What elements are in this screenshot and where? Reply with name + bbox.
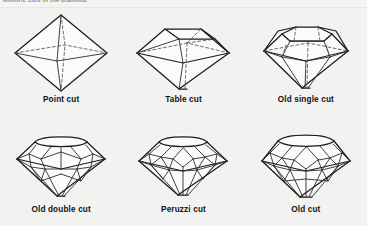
diamond-cut-cell-old-double-cut: Old double cut xyxy=(0,117,122,226)
old-cut-illustration xyxy=(252,121,360,205)
peruzzi-cut-illustration xyxy=(129,121,237,205)
old-single-cut-label: Old single cut xyxy=(278,96,334,104)
diamond-cut-cell-table-cut: Table cut xyxy=(122,8,244,117)
diamond-cut-cell-peruzzi-cut: Peruzzi cut xyxy=(122,117,244,226)
diamond-cut-cell-old-single-cut: Old single cut xyxy=(245,8,367,117)
old-double-cut-illustration xyxy=(7,121,115,205)
diamond-cuts-grid: Point cut xyxy=(0,8,367,225)
diamond-cut-cell-old-cut: Old cut xyxy=(245,117,367,226)
old-single-cut-illustration xyxy=(252,11,360,95)
figure-top-caption-strip: Historic cuts of the diamond xyxy=(0,0,367,7)
old-double-cut-label: Old double cut xyxy=(31,206,90,214)
diamond-cuts-figure: Historic cuts of the diamond xyxy=(0,0,367,225)
old-cut-label: Old cut xyxy=(291,206,320,214)
figure-top-caption-text: Historic cuts of the diamond xyxy=(3,0,87,3)
diamond-cut-cell-point-cut: Point cut xyxy=(0,8,122,117)
table-cut-illustration xyxy=(129,11,237,95)
peruzzi-cut-label: Peruzzi cut xyxy=(161,206,206,214)
point-cut-label: Point cut xyxy=(43,96,79,104)
point-cut-illustration xyxy=(7,11,115,95)
table-cut-label: Table cut xyxy=(165,96,202,104)
